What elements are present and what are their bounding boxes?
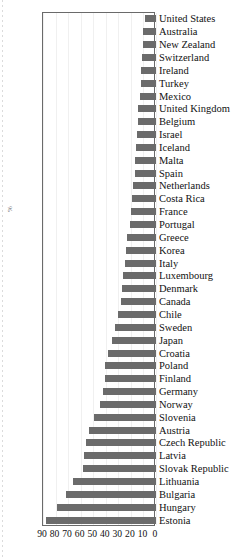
bar <box>126 247 156 254</box>
bar <box>115 324 156 331</box>
bar <box>145 15 156 22</box>
bar <box>94 414 156 421</box>
x-tick-label: 30 <box>113 528 123 539</box>
bar <box>83 465 156 472</box>
bar-chart: % United StatesAustraliaNew ZealandSwitz… <box>0 0 240 559</box>
x-tick-label: 70 <box>62 528 72 539</box>
bar <box>132 195 156 202</box>
bar <box>133 182 156 189</box>
bar <box>118 311 156 318</box>
bar-row: Estonia <box>43 514 156 528</box>
bar <box>138 118 156 125</box>
bar <box>135 157 156 164</box>
bar <box>66 491 156 498</box>
bar <box>121 298 156 305</box>
x-tick-label: 90 <box>37 528 47 539</box>
bar <box>131 208 156 215</box>
bar <box>73 478 156 485</box>
bar <box>86 439 156 446</box>
bar <box>89 427 156 434</box>
page-edge-artifact <box>2 0 3 559</box>
bar <box>138 105 156 112</box>
bar <box>136 144 156 151</box>
bar <box>142 54 156 61</box>
bar <box>112 337 156 344</box>
bar <box>127 234 156 241</box>
bar <box>108 350 156 357</box>
bar <box>137 131 156 138</box>
bar <box>140 93 156 100</box>
bar <box>57 504 156 511</box>
bar <box>105 375 156 382</box>
bar <box>141 80 156 87</box>
bar <box>105 362 156 369</box>
bar <box>100 401 157 408</box>
gridline <box>156 13 157 525</box>
x-tick-label: 0 <box>153 528 158 539</box>
x-axis-ticks: 9080706050403020100 <box>42 528 155 544</box>
bar <box>125 260 156 267</box>
bar-rows: United StatesAustraliaNew ZealandSwitzer… <box>43 13 156 527</box>
x-tick-label: 40 <box>100 528 110 539</box>
x-tick-label: 60 <box>75 528 85 539</box>
x-tick-label: 50 <box>87 528 97 539</box>
bar <box>123 272 156 279</box>
x-tick-label: 20 <box>125 528 135 539</box>
bar <box>143 28 156 35</box>
y-axis-title: % <box>6 198 14 220</box>
bar <box>143 41 156 48</box>
bar-category-label: Estonia <box>159 514 191 528</box>
bar <box>84 452 156 459</box>
bar <box>141 67 156 74</box>
bar <box>103 388 156 395</box>
bar <box>135 170 156 177</box>
bar <box>130 221 156 228</box>
plot-area: United StatesAustraliaNew ZealandSwitzer… <box>42 12 155 526</box>
bar <box>122 285 156 292</box>
x-tick-label: 10 <box>138 528 148 539</box>
bar <box>46 517 156 524</box>
x-tick-label: 80 <box>50 528 60 539</box>
